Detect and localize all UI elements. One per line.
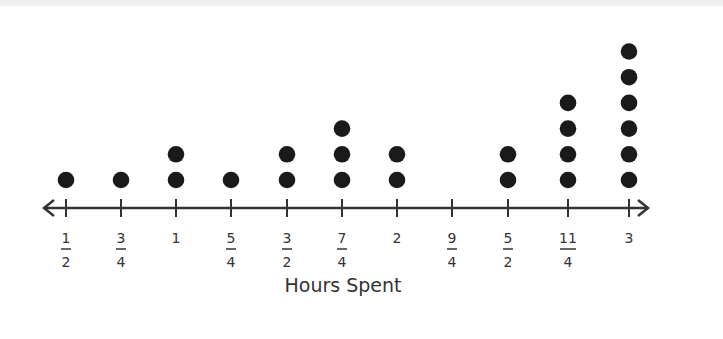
- data-dot: [389, 172, 406, 189]
- data-dot: [389, 146, 406, 163]
- data-dot: [58, 172, 75, 189]
- data-dot: [621, 69, 638, 86]
- tick-numerator: 5: [227, 230, 236, 246]
- tick-numerator: 3: [283, 230, 292, 246]
- data-dot: [560, 172, 577, 189]
- tick-denominator: 4: [564, 254, 573, 270]
- tick-label: 1: [172, 230, 181, 246]
- tick-denominator: 4: [338, 254, 347, 270]
- tick-numerator: 3: [625, 230, 634, 246]
- data-dot: [500, 172, 517, 189]
- data-dot: [621, 172, 638, 189]
- dot-plot: 12341543274294521143 Hours Spent: [0, 0, 723, 339]
- data-dot: [621, 43, 638, 60]
- data-dot: [500, 146, 517, 163]
- data-dot: [279, 146, 296, 163]
- tick-numerator: 5: [504, 230, 513, 246]
- tick-label: 114: [559, 230, 577, 270]
- tick-label: 34: [116, 230, 126, 270]
- tick-label: 52: [503, 230, 513, 270]
- tick-numerator: 7: [338, 230, 347, 246]
- tick-label: 2: [393, 230, 402, 246]
- data-dot: [621, 120, 638, 137]
- data-dot: [560, 120, 577, 137]
- tick-denominator: 2: [62, 254, 71, 270]
- tick-numerator: 9: [448, 230, 457, 246]
- data-dot: [560, 146, 577, 163]
- tick-label: 3: [625, 230, 634, 246]
- axis-ticks: 12341543274294521143: [61, 199, 633, 270]
- data-dot: [168, 146, 185, 163]
- tick-label: 74: [337, 230, 347, 270]
- data-dot: [621, 95, 638, 112]
- data-dot: [113, 172, 130, 189]
- data-dot: [334, 146, 351, 163]
- number-line-axis: [44, 200, 648, 216]
- tick-label: 32: [282, 230, 292, 270]
- tick-label: 94: [447, 230, 457, 270]
- data-dot: [560, 95, 577, 112]
- data-dot: [621, 146, 638, 163]
- tick-numerator: 1: [172, 230, 181, 246]
- data-dot: [334, 172, 351, 189]
- tick-numerator: 2: [393, 230, 402, 246]
- tick-denominator: 2: [283, 254, 292, 270]
- data-dot: [334, 120, 351, 137]
- data-dots: [58, 43, 638, 188]
- tick-denominator: 4: [448, 254, 457, 270]
- tick-numerator: 3: [117, 230, 126, 246]
- x-axis-title: Hours Spent: [284, 274, 401, 296]
- tick-label: 12: [61, 230, 71, 270]
- tick-numerator: 11: [559, 230, 577, 246]
- data-dot: [168, 172, 185, 189]
- tick-denominator: 4: [117, 254, 126, 270]
- data-dot: [223, 172, 240, 189]
- tick-numerator: 1: [62, 230, 71, 246]
- tick-label: 54: [226, 230, 236, 270]
- tick-denominator: 4: [227, 254, 236, 270]
- tick-denominator: 2: [504, 254, 513, 270]
- data-dot: [279, 172, 296, 189]
